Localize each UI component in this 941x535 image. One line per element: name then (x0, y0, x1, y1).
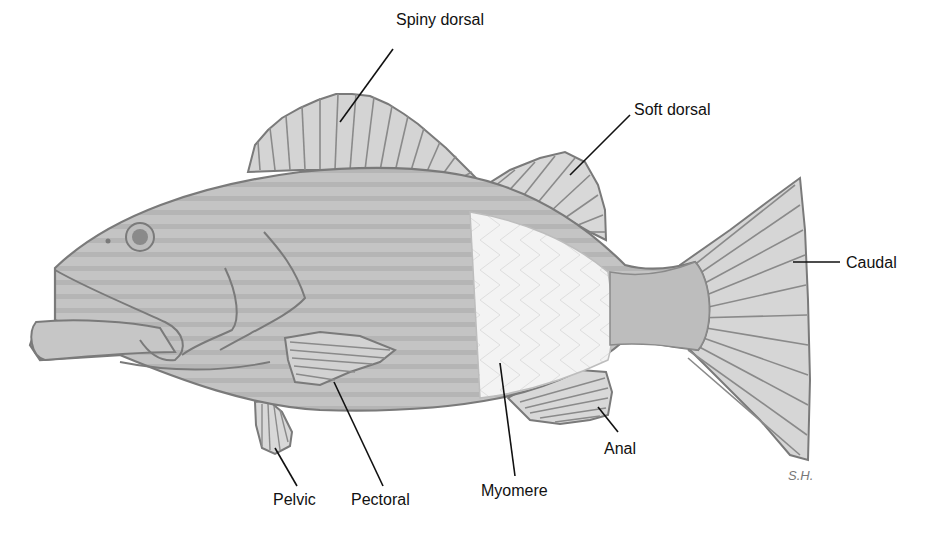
label-anal: Anal (604, 441, 636, 457)
label-soft-dorsal: Soft dorsal (634, 102, 710, 118)
label-pelvic: Pelvic (273, 492, 316, 508)
fish-illustration: S.H. (0, 0, 941, 535)
leader-soft-dorsal (570, 115, 630, 175)
fish-anatomy-diagram: S.H. Spiny dorsal Soft dorsal Caudal Ana… (0, 0, 941, 535)
leader-pelvic (275, 448, 297, 486)
label-pectoral: Pectoral (351, 492, 410, 508)
pelvic-fin (255, 400, 292, 454)
label-myomere: Myomere (481, 483, 548, 499)
label-spiny-dorsal: Spiny dorsal (396, 12, 484, 28)
artist-signature: S.H. (788, 468, 813, 483)
label-caudal: Caudal (846, 255, 897, 271)
eye (126, 223, 154, 251)
nostril (106, 239, 111, 244)
